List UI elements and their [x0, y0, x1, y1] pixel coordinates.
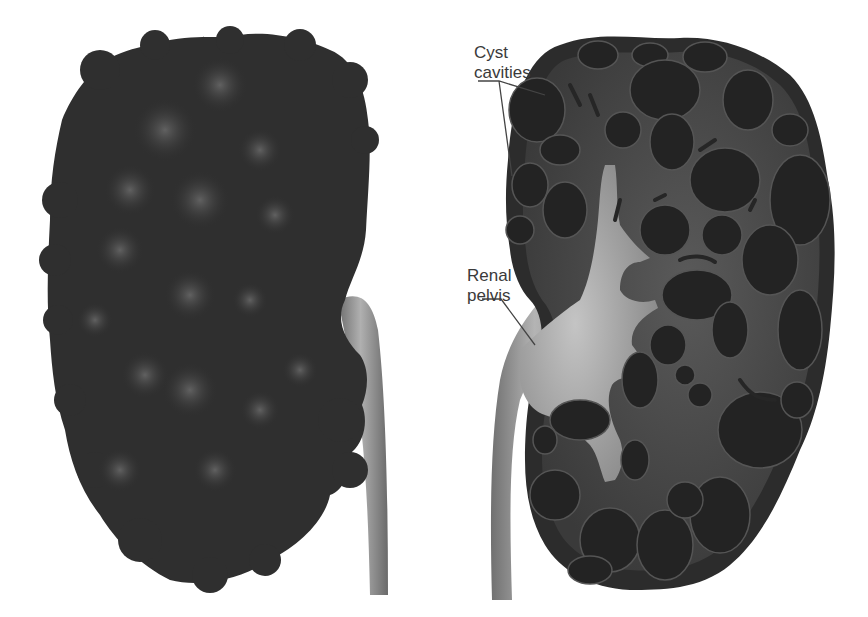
label-cyst-line1: Cyst	[474, 43, 531, 63]
external-kidney	[39, 26, 388, 595]
sectioned-kidney	[491, 37, 835, 600]
polycystic-kidney-illustration	[0, 0, 868, 617]
label-cyst-line2: cavities	[474, 63, 531, 83]
label-pelvis-line1: Renal	[467, 266, 511, 286]
label-renal-pelvis: Renal pelvis	[467, 266, 511, 306]
label-pelvis-line2: pelvis	[467, 286, 511, 306]
label-cyst-cavities: Cyst cavities	[474, 43, 531, 83]
